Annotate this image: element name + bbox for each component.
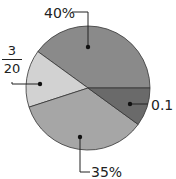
pie-svg bbox=[0, 0, 176, 179]
label-40: 40% bbox=[44, 6, 75, 20]
fraction-denominator: 20 bbox=[4, 61, 21, 76]
label-fraction: 3 20 bbox=[2, 44, 22, 75]
pie-chart: 40% 3 20 0.1 35% bbox=[0, 0, 176, 179]
label-35: 35% bbox=[91, 165, 122, 179]
fraction-numerator: 3 bbox=[8, 43, 16, 58]
label-0-1: 0.1 bbox=[151, 98, 173, 112]
fraction-bar bbox=[2, 59, 22, 60]
